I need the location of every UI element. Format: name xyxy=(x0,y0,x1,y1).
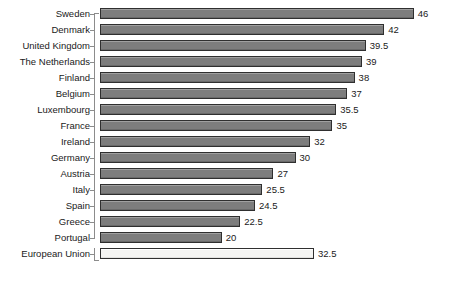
value-label-the-netherlands: 39 xyxy=(366,54,377,70)
value-label-european-union: 32.5 xyxy=(318,246,337,262)
bar-italy xyxy=(100,184,262,195)
axis-tick xyxy=(90,126,95,127)
category-label-finland: Finland xyxy=(4,70,90,86)
category-label-united-kingdom: United Kingdom xyxy=(4,38,90,54)
value-label-belgium: 37 xyxy=(351,86,362,102)
bar-spain xyxy=(100,200,255,211)
bar-row: Greece22.5 xyxy=(0,214,469,230)
axis-tick xyxy=(90,46,95,47)
axis-tick xyxy=(90,94,95,95)
axis-tick xyxy=(90,238,95,239)
category-label-france: France xyxy=(4,118,90,134)
bar-row: Sweden46 xyxy=(0,6,469,22)
value-label-spain: 24.5 xyxy=(259,198,278,214)
category-label-ireland: Ireland xyxy=(4,134,90,150)
bar-row: Luxembourg35.5 xyxy=(0,102,469,118)
value-label-finland: 38 xyxy=(359,70,370,86)
axis-tick xyxy=(90,30,95,31)
value-label-greece: 22.5 xyxy=(244,214,263,230)
value-label-france: 35 xyxy=(336,118,347,134)
category-label-luxembourg: Luxembourg xyxy=(4,102,90,118)
value-label-united-kingdom: 39.5 xyxy=(370,38,389,54)
bar-the-netherlands xyxy=(100,56,362,67)
bar-germany xyxy=(100,152,296,163)
category-label-austria: Austria xyxy=(4,166,90,182)
bar-row: Spain24.5 xyxy=(0,198,469,214)
category-label-belgium: Belgium xyxy=(4,86,90,102)
bar-row: European Union32.5 xyxy=(0,246,469,262)
value-label-denmark: 42 xyxy=(388,22,399,38)
category-label-sweden: Sweden xyxy=(4,6,90,22)
bar-france xyxy=(100,120,332,131)
bar-finland xyxy=(100,72,355,83)
bar-row: Ireland32 xyxy=(0,134,469,150)
category-label-italy: Italy xyxy=(4,182,90,198)
bar-row: United Kingdom39.5 xyxy=(0,38,469,54)
axis-tick xyxy=(90,62,95,63)
category-label-spain: Spain xyxy=(4,198,90,214)
value-label-germany: 30 xyxy=(300,150,311,166)
value-label-portugal: 20 xyxy=(226,230,237,246)
category-label-portugal: Portugal xyxy=(4,230,90,246)
category-label-germany: Germany xyxy=(4,150,90,166)
category-label-the-netherlands: The Netherlands xyxy=(4,54,90,70)
bar-united-kingdom xyxy=(100,40,366,51)
bar-belgium xyxy=(100,88,347,99)
bar-row: France35 xyxy=(0,118,469,134)
bar-row: Austria27 xyxy=(0,166,469,182)
bar-european-union xyxy=(100,248,314,259)
bar-ireland xyxy=(100,136,310,147)
category-label-european-union: European Union xyxy=(4,246,90,262)
bar-greece xyxy=(100,216,240,227)
axis-tick xyxy=(90,254,95,255)
axis-tick xyxy=(90,78,95,79)
bar-austria xyxy=(100,168,273,179)
axis-tick xyxy=(90,14,95,15)
bar-portugal xyxy=(100,232,222,243)
axis-tick xyxy=(90,158,95,159)
bar-sweden xyxy=(100,8,414,19)
bar-luxembourg xyxy=(100,104,336,115)
axis-tick xyxy=(90,190,95,191)
value-label-ireland: 32 xyxy=(314,134,325,150)
axis-tick xyxy=(90,206,95,207)
category-label-greece: Greece xyxy=(4,214,90,230)
bar-row: Portugal20 xyxy=(0,230,469,246)
bar-denmark xyxy=(100,24,384,35)
value-label-italy: 25.5 xyxy=(266,182,285,198)
value-label-luxembourg: 35.5 xyxy=(340,102,359,118)
bar-row: Germany30 xyxy=(0,150,469,166)
category-label-denmark: Denmark xyxy=(4,22,90,38)
axis-tick xyxy=(90,110,95,111)
bar-row: The Netherlands39 xyxy=(0,54,469,70)
bar-row: Denmark42 xyxy=(0,22,469,38)
bar-row: Finland38 xyxy=(0,70,469,86)
value-label-sweden: 46 xyxy=(418,6,429,22)
axis-tick xyxy=(90,142,95,143)
axis-tick xyxy=(90,222,95,223)
bar-row: Belgium37 xyxy=(0,86,469,102)
axis-tick xyxy=(90,174,95,175)
value-label-austria: 27 xyxy=(277,166,288,182)
bar-row: Italy25.5 xyxy=(0,182,469,198)
bar-chart: Sweden46Denmark42United Kingdom39.5The N… xyxy=(0,0,469,290)
